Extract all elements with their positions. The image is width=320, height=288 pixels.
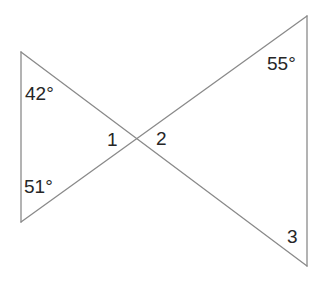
geometry-figure: 42° 51° 55° 1 2 3 [0, 0, 320, 288]
angle-label-2: 2 [156, 129, 167, 148]
angle-label-42-degrees: 42° [25, 84, 54, 103]
angle-label-55-degrees: 55° [267, 54, 296, 73]
angle-label-1: 1 [107, 130, 118, 149]
angle-label-51-degrees: 51° [24, 177, 53, 196]
angle-label-3: 3 [287, 227, 298, 246]
